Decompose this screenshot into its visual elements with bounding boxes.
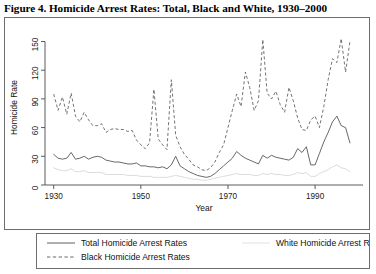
chart-frame: 03060901201501930195019701990YearHomicid… [4,17,370,230]
y-tick-label: 150 [31,37,40,51]
x-tick-label: 1930 [45,192,64,201]
axes-layer [41,41,363,189]
x-tick-label: 1950 [132,192,151,201]
y-tick-label: 120 [31,66,40,80]
legend-label-total: Total Homicide Arrest Rates [81,238,187,248]
figure-title: Figure 4. Homicide Arrest Rates: Total, … [4,2,376,14]
homicide-arrest-rates-line-chart: 03060901201501930195019701990YearHomicid… [5,18,369,229]
x-axis-title: Year [196,203,213,213]
legend-content: Total Homicide Arrest RatesWhite Homicid… [37,234,369,268]
y-tick-label: 0 [31,185,40,190]
y-tick-label: 60 [31,126,40,136]
x-tick-label: 1990 [306,192,325,201]
legend-label-white: White Homicide Arrest Rates [276,238,369,248]
x-tick-label: 1970 [219,192,238,201]
y-tick-label: 30 [31,154,40,164]
series-line-black [54,39,350,171]
series-line-white [54,165,350,180]
y-axis-title: Homicide Rate [9,80,19,135]
legend-label-black: Black Homicide Arrest Rates [81,252,190,262]
axis-labels-layer: 03060901201501930195019701990YearHomicid… [9,37,325,213]
series-layer [54,39,350,181]
chart-legend: Total Homicide Arrest RatesWhite Homicid… [36,233,370,269]
y-tick-label: 90 [31,97,40,107]
